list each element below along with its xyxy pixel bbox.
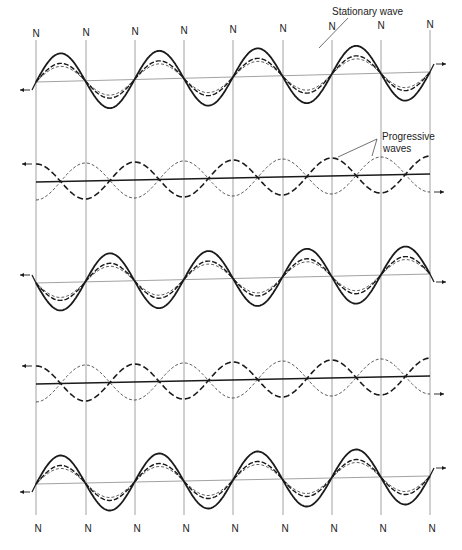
end-tick xyxy=(32,484,36,492)
end-tick xyxy=(430,468,434,476)
node-label-bottom: N xyxy=(379,523,386,534)
progressive-leader-2 xyxy=(372,139,377,156)
arrow-head-icon xyxy=(20,490,24,494)
node-label-bottom: N xyxy=(428,523,435,534)
node-label-bottom: N xyxy=(330,523,337,534)
arrow-head-icon xyxy=(20,88,24,92)
end-tick xyxy=(430,274,434,282)
standing-wave-diagram: NNNNNNNNN NNNNNNNNN Stationary wave Prog… xyxy=(0,0,462,550)
node-label-top: N xyxy=(328,21,335,32)
stationary-wave-label: Stationary wave xyxy=(332,6,404,17)
arrow-head-icon xyxy=(440,190,444,194)
end-tick xyxy=(32,82,36,90)
end-tick xyxy=(430,64,434,72)
node-label-bottom: N xyxy=(281,523,288,534)
arrow-head-icon xyxy=(440,392,444,396)
progressive-leader-1 xyxy=(338,139,377,157)
node-label-bottom: N xyxy=(182,523,189,534)
arrow-head-icon xyxy=(442,466,446,470)
bottom-node-labels: NNNNNNNNN xyxy=(34,523,435,534)
arrow-head-icon xyxy=(22,162,26,166)
node-label-top: N xyxy=(32,28,39,39)
node-label-top: N xyxy=(131,26,138,37)
node-label-top: N xyxy=(377,20,384,31)
end-tick xyxy=(32,275,36,283)
node-label-top: N xyxy=(180,25,187,36)
node-label-top: N xyxy=(279,23,286,34)
node-label-bottom: N xyxy=(133,523,140,534)
node-label-bottom: N xyxy=(84,523,91,534)
node-label-top: N xyxy=(229,24,236,35)
arrow-head-icon xyxy=(20,273,24,277)
node-label-bottom: N xyxy=(34,523,41,534)
top-node-labels: NNNNNNNNN xyxy=(32,19,433,39)
node-label-bottom: N xyxy=(231,523,238,534)
progressive-waves-label-2: waves xyxy=(382,143,411,154)
arrow-head-icon xyxy=(442,280,446,284)
node-label-top: N xyxy=(82,27,89,38)
arrow-head-icon xyxy=(442,62,446,66)
arrow-head-icon xyxy=(22,364,26,368)
progressive-waves-label-1: Progressive xyxy=(382,131,435,142)
node-label-top: N xyxy=(426,19,433,30)
